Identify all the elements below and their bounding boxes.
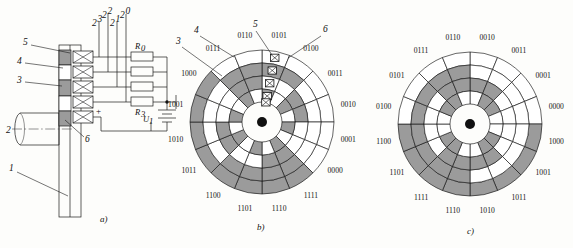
code-label: 1101 — [389, 168, 404, 177]
code-label: 1001 — [536, 168, 551, 177]
code-label: 0011 — [511, 46, 526, 55]
source-label-u1-sub: 1 — [149, 116, 153, 126]
code-label: 1101 — [237, 204, 252, 213]
callout-1: 1 — [9, 163, 14, 173]
code-label: 0101 — [389, 71, 404, 80]
code-label: 1000 — [549, 137, 564, 146]
bit-weight-2-2-exp: 2 — [108, 6, 113, 16]
signal-wires — [93, 57, 131, 102]
figure-root: 2 3 2 2 2 1 2 0 — [0, 0, 573, 248]
bit-weight-2-1: 2 — [110, 18, 115, 28]
panel-b-binary-disc: 0101010000110010000100001111111011011100… — [160, 0, 365, 248]
resistor-r1 — [131, 67, 153, 76]
gray-disc-svg: 0010001100010000100010011011101011101111… — [368, 0, 573, 248]
code-label: 0100 — [303, 44, 318, 53]
disc-callout: 5 — [253, 19, 258, 29]
disc-callout: 6 — [323, 24, 328, 34]
code-label: 1011 — [511, 193, 526, 202]
leader-5 — [31, 45, 70, 53]
callout-4: 4 — [17, 56, 22, 66]
callout-2: 2 — [6, 125, 11, 135]
callout-3: 3 — [16, 75, 22, 85]
code-label: 0000 — [328, 166, 343, 175]
code-label: 1100 — [206, 191, 221, 200]
bit-weight-2-0: 2 — [120, 10, 125, 20]
caption-b: b) — [257, 222, 265, 232]
code-label: 1111 — [304, 191, 319, 200]
caption-c: c) — [467, 226, 474, 236]
schematic-svg: 2 3 2 2 2 1 2 0 — [0, 0, 175, 248]
code-label: 0010 — [480, 33, 495, 42]
code-label: 1110 — [272, 204, 287, 213]
caption-a: a) — [100, 214, 108, 224]
code-label: 1001 — [168, 100, 183, 109]
code-label: 0011 — [328, 69, 343, 78]
code-label: 0000 — [549, 102, 564, 111]
resistor-r0 — [131, 52, 153, 61]
code-label: 0101 — [272, 31, 287, 40]
resistor-r2 — [131, 82, 153, 91]
resistor-r3 — [131, 97, 153, 106]
brush-contacts — [73, 51, 93, 123]
resistor-label-r3: R — [134, 107, 141, 117]
code-label: 1010 — [168, 135, 183, 144]
leader-3 — [25, 82, 62, 86]
code-label: 1000 — [181, 69, 196, 78]
code-label: 0001 — [341, 135, 356, 144]
panel-a-schematic: 2 3 2 2 2 1 2 0 — [0, 0, 175, 248]
code-label: 0111 — [206, 44, 221, 53]
code-label: 1010 — [480, 206, 495, 215]
code-disc-edge-blocks — [59, 50, 71, 126]
resistor-label-r0: R — [134, 41, 141, 51]
code-label: 0010 — [341, 100, 356, 109]
bit-weight-2-3: 2 — [92, 18, 97, 28]
resistor-labels: R 0 R 3 — [134, 41, 146, 119]
panel-c-gray-disc: 0010001100010000100010011011101011101111… — [368, 0, 573, 248]
disc-callout: 3 — [175, 36, 181, 46]
callout-5: 5 — [23, 37, 28, 47]
resistor-label-r0-sub: 0 — [141, 43, 146, 53]
bit-weight-2-2: 2 — [102, 10, 107, 20]
polarity-plus: + — [96, 106, 101, 116]
disc-hub — [257, 117, 267, 127]
bit-weight-2-0-exp: 0 — [126, 6, 131, 16]
code-label: 1100 — [376, 137, 391, 146]
code-label: 0001 — [536, 71, 551, 80]
disc-hub — [465, 119, 475, 129]
leader-1 — [17, 172, 68, 196]
code-label: 1110 — [446, 206, 461, 215]
code-label: 1011 — [181, 166, 196, 175]
code-label: 0100 — [376, 102, 391, 111]
code-label: 1111 — [414, 193, 429, 202]
disc-callout: 4 — [194, 25, 199, 35]
code-label: 0110 — [445, 33, 460, 42]
code-label: 0111 — [414, 46, 429, 55]
callout-6: 6 — [85, 134, 90, 144]
leader-4 — [25, 63, 63, 68]
binary-disc-svg: 0101010000110010000100001111111011011100… — [160, 0, 365, 248]
bit-weight-labels: 2 3 2 2 2 1 2 0 — [92, 6, 131, 29]
code-label: 0110 — [237, 31, 252, 40]
